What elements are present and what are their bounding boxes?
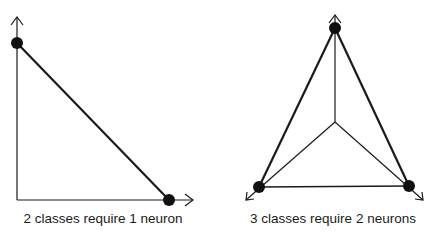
two-class-diagram xyxy=(11,17,193,206)
triangle-edge-right xyxy=(335,28,409,186)
class-point-right xyxy=(163,194,175,206)
three-class-diagram xyxy=(246,15,423,200)
two-class-caption: 2 classes require 1 neuron xyxy=(23,211,182,226)
three-class-caption: 3 classes require 2 neurons xyxy=(250,211,416,226)
class-point-top xyxy=(11,37,23,49)
decision-line xyxy=(17,43,169,200)
diagram-canvas xyxy=(0,0,437,239)
class-point-top xyxy=(329,22,341,34)
triangle-edge-left xyxy=(259,28,335,187)
class-point-bottom-left xyxy=(253,181,265,193)
triangle-edge-bottom xyxy=(259,186,409,187)
class-point-bottom-right xyxy=(403,180,415,192)
